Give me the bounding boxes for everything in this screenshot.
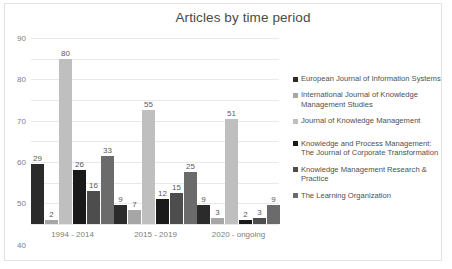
gridline: 0	[31, 224, 279, 225]
bar[interactable]	[114, 205, 127, 224]
bar-column[interactable]: 3	[253, 38, 266, 224]
bar-column[interactable]: 9	[197, 38, 210, 224]
bar-value-label: 29	[33, 154, 42, 163]
bar-value-label: 2	[49, 210, 53, 219]
bar-column[interactable]: 33	[101, 38, 114, 224]
bar-column[interactable]: 3	[211, 38, 224, 224]
bar[interactable]	[45, 220, 58, 224]
bar-value-label: 55	[144, 100, 153, 109]
x-axis-category-label: 2015 - 2019	[134, 230, 177, 239]
bar-column[interactable]: 29	[31, 38, 44, 224]
chart-legend: European Journal of Information SystemsI…	[293, 74, 443, 207]
legend-item[interactable]: Knowledge and Process Management: The Jo…	[293, 139, 443, 158]
bar-value-label: 9	[118, 195, 122, 204]
x-axis-category-label: 2020 - ongoing	[212, 230, 265, 239]
bar-value-label: 33	[103, 146, 112, 155]
legend-swatch-icon	[293, 167, 298, 172]
bar-column[interactable]: 2	[239, 38, 252, 224]
bar[interactable]	[197, 205, 210, 224]
bar-value-label: 15	[172, 183, 181, 192]
bar-value-label: 3	[215, 208, 219, 217]
bar-column[interactable]: 12	[156, 38, 169, 224]
bar-group: 93512392020 - ongoing	[197, 38, 280, 224]
bar[interactable]	[156, 199, 169, 224]
legend-label: European Journal of Information Systems	[301, 74, 441, 83]
legend-swatch-icon	[293, 193, 298, 198]
y-axis-tick-label: 40	[17, 240, 26, 249]
bar[interactable]	[239, 220, 252, 224]
legend-label: Journal of Knowledge Management	[301, 116, 420, 125]
bar-column[interactable]: 9	[114, 38, 127, 224]
chart-frame: Articles by time period 0102030405060708…	[4, 3, 442, 261]
bar-value-label: 12	[158, 189, 167, 198]
chart-title: Articles by time period	[5, 10, 441, 25]
bar-value-label: 25	[186, 162, 195, 171]
legend-item[interactable]: European Journal of Information Systems	[293, 74, 443, 83]
bar-value-label: 3	[257, 208, 261, 217]
bar-column[interactable]: 55	[142, 38, 155, 224]
bar-value-label: 80	[61, 49, 70, 58]
bar-column[interactable]: 26	[73, 38, 86, 224]
bar-value-label: 26	[75, 160, 84, 169]
bar[interactable]	[253, 218, 266, 224]
legend-swatch-icon	[293, 141, 298, 146]
bar[interactable]	[31, 164, 44, 224]
bar[interactable]	[59, 59, 72, 224]
bar[interactable]	[142, 110, 155, 224]
bar[interactable]	[184, 172, 197, 224]
bar-value-label: 9	[271, 195, 275, 204]
bar[interactable]	[101, 156, 114, 224]
bar[interactable]	[73, 170, 86, 224]
bar-column[interactable]: 7	[128, 38, 141, 224]
bar-value-label: 51	[227, 109, 236, 118]
x-axis-category-label: 1994 - 2014	[51, 230, 94, 239]
y-axis-tick-label: 60	[17, 158, 26, 167]
legend-label: Knowledge and Process Management: The Jo…	[301, 139, 443, 158]
bar[interactable]	[211, 218, 224, 224]
bar-column[interactable]: 25	[184, 38, 197, 224]
legend-swatch-icon	[293, 93, 298, 98]
legend-label: The Learning Organization	[301, 191, 391, 200]
y-axis-tick-label: 90	[17, 34, 26, 43]
bar-column[interactable]: 16	[87, 38, 100, 224]
legend-label: International Journal of Knowledge Manag…	[301, 90, 443, 109]
bar-value-label: 7	[132, 200, 136, 209]
bar-column[interactable]: 2	[45, 38, 58, 224]
bar-column[interactable]: 80	[59, 38, 72, 224]
bar-value-label: 2	[243, 210, 247, 219]
bar-value-label: 9	[201, 195, 205, 204]
bar-group: 97551215252015 - 2019	[114, 38, 197, 224]
bar-group: 292802616331994 - 2014	[31, 38, 114, 224]
y-axis-tick-label: 50	[17, 199, 26, 208]
legend-item[interactable]: The Learning Organization	[293, 191, 443, 200]
bar-column[interactable]: 9	[267, 38, 280, 224]
legend-label: Knowledge Management Research & Practice	[301, 165, 443, 184]
legend-swatch-icon	[293, 77, 298, 82]
bar[interactable]	[225, 119, 238, 224]
legend-swatch-icon	[293, 119, 298, 124]
bar-value-label: 16	[89, 181, 98, 190]
legend-item[interactable]: International Journal of Knowledge Manag…	[293, 90, 443, 109]
bar[interactable]	[170, 193, 183, 224]
bar-column[interactable]: 51	[225, 38, 238, 224]
legend-item[interactable]: Knowledge Management Research & Practice	[293, 165, 443, 184]
bar-column[interactable]: 15	[170, 38, 183, 224]
plot-area: 0102030405060708090 292802616331994 - 20…	[31, 38, 279, 224]
bar[interactable]	[87, 191, 100, 224]
bar[interactable]	[128, 210, 141, 224]
legend-item[interactable]: Journal of Knowledge Management	[293, 116, 443, 125]
y-axis-tick-label: 70	[17, 116, 26, 125]
bar[interactable]	[267, 205, 280, 224]
bar-groups: 292802616331994 - 201497551215252015 - 2…	[31, 38, 279, 224]
y-axis-tick-label: 80	[17, 75, 26, 84]
